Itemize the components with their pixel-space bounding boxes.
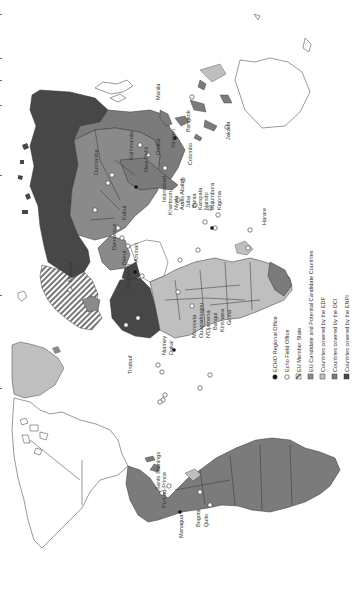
city-label: Yangon — [170, 129, 176, 148]
city-label: Quito — [203, 514, 209, 527]
region-eu-members — [18, 265, 102, 330]
legend-item-candidate: EU Candidate and Potential Candidate Cou… — [308, 250, 314, 379]
legend-label: Countries covered by the EDF — [320, 296, 326, 372]
legend-label: ECHO Regional Office — [272, 316, 278, 372]
legend-label: Countries covered by the ENPI — [344, 295, 350, 372]
legend-item-enpi: Countries covered by the ENPI — [344, 295, 350, 379]
candidate-swatch-icon — [308, 374, 313, 379]
city-label: Beirut — [121, 250, 127, 265]
legend-item-dci: Countries covered by the DCI — [332, 298, 338, 379]
region-north-america-outline — [12, 398, 128, 548]
city-label: Dakar — [168, 340, 174, 355]
legend-label: EU Candidate and Potential Candidate Cou… — [308, 250, 314, 372]
city-label: Kabul — [121, 206, 127, 220]
legend-item-field-office: Echo Field Office — [284, 330, 290, 380]
regional-office-icon — [273, 375, 277, 379]
region-australia-outline — [235, 14, 311, 128]
city-label: Managua — [178, 514, 184, 538]
city-label: Harare — [261, 208, 267, 225]
city-label: Colombo — [187, 143, 193, 165]
legend-label: EU Member State — [296, 328, 302, 372]
city-label: Moscow — [67, 261, 73, 282]
city-label: Santo Domingo — [155, 451, 161, 490]
city-label: Kathmandu — [128, 131, 134, 160]
city-label: Jerusalem — [125, 264, 131, 290]
region-arctic-outline — [95, 80, 133, 102]
city-label: Kigoma — [216, 190, 222, 210]
edf-swatch-icon — [320, 374, 325, 379]
city-label: Goma — [226, 309, 232, 325]
city-label: N'Djamena — [205, 310, 211, 338]
field-office-icon — [285, 375, 289, 379]
city-label: Amman — [133, 243, 139, 262]
edge-ticks — [0, 14, 2, 389]
city-label: Monrovia — [191, 314, 197, 338]
city-label: New Delhi — [143, 147, 149, 173]
city-label: Damascus — [111, 223, 117, 250]
city-label: Dushanbe — [93, 149, 99, 175]
city-label: Kinshasa — [219, 308, 225, 332]
legend-item-edf: Countries covered by the EDF — [320, 296, 326, 379]
region-greenland — [12, 342, 64, 398]
city-label: Tindouf — [127, 355, 133, 374]
dci-swatch-icon — [332, 374, 337, 379]
city-label: Bangui — [212, 313, 218, 330]
city-label: Islamabad — [161, 176, 167, 202]
hatch-swatch-icon — [296, 374, 301, 379]
city-label: Bangkok — [185, 110, 191, 132]
city-label: Bogota — [195, 508, 201, 527]
legend-item-regional-office: ECHO Regional Office — [272, 316, 278, 379]
legend-label: Echo Field Office — [284, 330, 290, 373]
city-label: Jakarta — [225, 121, 231, 140]
city-label: Port-au-Prince — [161, 472, 167, 508]
city-label: Ouagadougou — [198, 303, 204, 338]
city-label: Niamey — [161, 336, 167, 355]
legend-label: Countries covered by the DCI — [332, 298, 338, 372]
world-map: Port-au-Prince Santo Domingo Managua Bog… — [0, 0, 363, 591]
city-label: Bujumbura — [209, 182, 215, 210]
enpi-swatch-icon — [344, 374, 349, 379]
city-label: Manila — [155, 83, 161, 100]
city-label: Dhaka — [155, 138, 161, 155]
legend-item-eu-member: EU Member State — [296, 328, 302, 379]
